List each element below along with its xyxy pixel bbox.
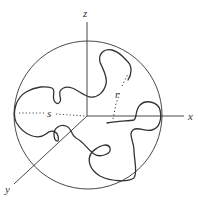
s-distance-line-right [56,114,85,116]
s-label: s [47,107,51,119]
polymer-coil-diagram: z x y s r [0,0,198,201]
polymer-chain [14,50,160,181]
sphere-outline [14,41,162,189]
x-axis-label: x [187,110,193,122]
r-label: r [115,88,120,100]
z-axis-label: z [82,7,88,19]
diagram-canvas: z x y s r [0,0,198,201]
y-axis-label: y [4,183,10,195]
y-axis [14,116,87,184]
